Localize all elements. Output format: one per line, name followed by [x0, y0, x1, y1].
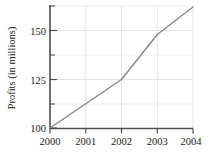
y-axis-title: Profits (in millions): [6, 26, 18, 109]
vertical-gridlines: [86, 6, 193, 128]
x-tick-label-2004: 2004: [181, 136, 203, 147]
y-tick-label-100: 100: [30, 123, 46, 134]
y-tick-label-150: 150: [30, 26, 46, 37]
y-tick-label-125: 125: [30, 75, 46, 86]
y-axis-ticks: [50, 6, 57, 128]
x-tick-label-2001: 2001: [75, 136, 96, 147]
x-tick-label-2002: 2002: [111, 136, 132, 147]
chart-canvas: 150 125 100 2000 2001 2002 2003 2004 Pro…: [0, 0, 212, 152]
line-chart: 150 125 100 2000 2001 2002 2003 2004 Pro…: [0, 0, 212, 152]
x-tick-label-2000: 2000: [40, 136, 61, 147]
x-tick-label-2003: 2003: [147, 136, 168, 147]
